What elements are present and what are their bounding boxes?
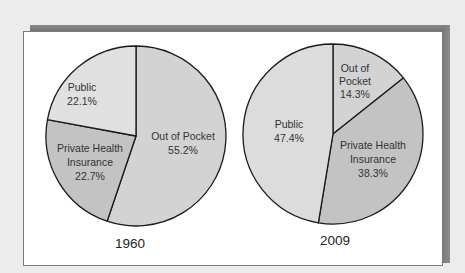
year-label-1960: 1960 (115, 236, 145, 251)
value-2009-public: 47.4% (274, 132, 304, 144)
pie-charts: Public 22.1% Out of Pocket 55.2% Private… (0, 0, 465, 273)
label-1960-private-line2: Insurance (67, 156, 113, 168)
value-1960-out-of-pocket: 55.2% (168, 144, 198, 156)
label-1960-public: Public (68, 81, 97, 93)
label-1960-out-of-pocket: Out of Pocket (151, 130, 215, 142)
value-1960-public: 22.1% (67, 95, 97, 107)
label-2009-private-line1: Private Health (340, 139, 406, 151)
year-label-2009: 2009 (320, 233, 350, 248)
pie-2009 (243, 44, 423, 224)
value-2009-private: 38.3% (358, 167, 388, 179)
value-2009-out-of-pocket: 14.3% (340, 88, 370, 100)
label-2009-private-line2: Insurance (350, 153, 396, 165)
label-2009-out-of-pocket-line1: Out of (341, 62, 370, 74)
label-1960-private-line1: Private Health (57, 142, 123, 154)
value-1960-private: 22.7% (75, 170, 105, 182)
label-2009-public: Public (275, 118, 304, 130)
label-2009-out-of-pocket-line2: Pocket (339, 75, 371, 87)
